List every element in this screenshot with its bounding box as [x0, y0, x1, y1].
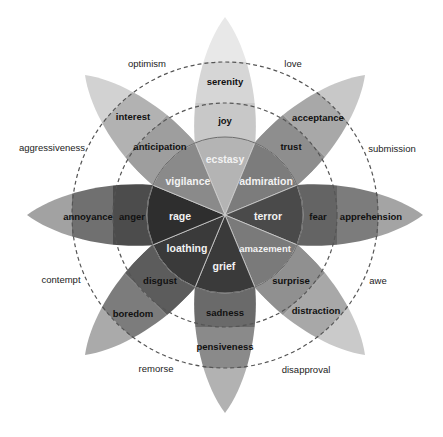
label-submission: submission	[368, 143, 416, 154]
label-acceptance: acceptance	[292, 112, 344, 123]
label-loathing: loathing	[167, 242, 208, 254]
label-contempt: contempt	[41, 274, 80, 285]
label-joy: joy	[217, 115, 232, 126]
label-anticipation: anticipation	[133, 141, 187, 152]
label-aggressiveness: aggressiveness	[19, 142, 85, 153]
label-awe: awe	[369, 275, 386, 286]
label-rage: rage	[169, 210, 191, 222]
label-surprise: surprise	[272, 275, 310, 286]
label-serenity: serenity	[207, 76, 244, 87]
label-amazement: amazement	[239, 243, 292, 254]
label-distraction: distraction	[292, 305, 341, 316]
label-boredom: boredom	[113, 308, 154, 319]
label-admiration: admiration	[239, 175, 293, 187]
label-interest: interest	[116, 111, 151, 122]
label-disapproval: disapproval	[282, 364, 331, 375]
label-grief: grief	[213, 260, 236, 272]
label-apprehension: apprehension	[340, 211, 402, 222]
label-optimism: optimism	[128, 58, 166, 69]
emotion-wheel-diagram: ecstasy admiration terror amazement grie…	[0, 0, 443, 437]
label-trust: trust	[280, 141, 302, 152]
label-anger: anger	[119, 211, 145, 222]
label-love: love	[284, 58, 301, 69]
label-fear: fear	[309, 211, 327, 222]
label-vigilance: vigilance	[166, 175, 211, 187]
label-annoyance: annoyance	[63, 211, 113, 222]
label-pensiveness: pensiveness	[196, 341, 253, 352]
label-remorse: remorse	[139, 363, 174, 374]
label-terror: terror	[254, 210, 282, 222]
label-disgust: disgust	[143, 275, 178, 286]
label-sadness: sadness	[206, 307, 244, 318]
label-ecstasy: ecstasy	[206, 153, 245, 165]
